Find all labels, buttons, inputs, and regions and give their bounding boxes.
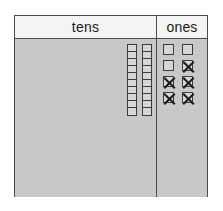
tens-rod-unit — [128, 80, 136, 87]
column-header-ones: ones — [157, 16, 207, 38]
tens-rod — [142, 44, 152, 116]
ones-square — [163, 60, 174, 71]
chart-body-row — [15, 39, 207, 197]
tens-rod-unit — [128, 52, 136, 59]
tens-rod-unit — [128, 45, 136, 52]
tens-rod-unit — [128, 59, 136, 66]
ones-square — [163, 44, 174, 55]
tens-rod-unit — [143, 101, 151, 108]
tens-rod-unit — [128, 101, 136, 108]
ones-square-crossed — [182, 60, 193, 71]
tens-rod-unit — [128, 94, 136, 101]
tens-rod-unit — [128, 73, 136, 80]
tens-rod-unit — [128, 87, 136, 94]
tens-rod-unit — [143, 87, 151, 94]
tens-rod-unit — [128, 66, 136, 73]
ones-square-crossed — [182, 76, 193, 87]
tens-rod — [127, 44, 137, 116]
tens-rod-unit — [143, 45, 151, 52]
column-header-tens: tens — [15, 16, 157, 38]
place-value-chart: tens ones — [14, 15, 208, 197]
ones-column-cell — [157, 39, 207, 197]
tens-rod-unit — [143, 52, 151, 59]
tens-rod-group — [127, 44, 152, 116]
chart-header-row: tens ones — [15, 16, 207, 39]
tens-column-cell — [15, 39, 157, 197]
tens-rod-unit — [143, 59, 151, 66]
ones-square-crossed — [163, 76, 174, 87]
tens-rod-unit — [143, 73, 151, 80]
ones-square — [182, 44, 193, 55]
tens-rod-unit — [143, 80, 151, 87]
tens-rod-unit — [143, 108, 151, 115]
ones-square-group — [163, 44, 195, 105]
ones-square-crossed — [163, 92, 174, 103]
tens-rod-unit — [143, 94, 151, 101]
ones-square-crossed — [182, 92, 193, 103]
tens-rod-unit — [128, 108, 136, 115]
tens-rod-unit — [143, 66, 151, 73]
